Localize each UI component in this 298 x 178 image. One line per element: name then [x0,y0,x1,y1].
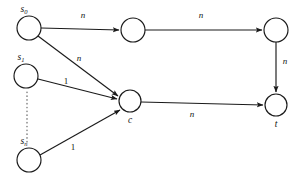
node-labels-group: s0 s1 sn c t [18,4,278,147]
edge-label-s1-to-c: 1 [64,76,69,86]
edges-group [38,28,276,155]
node-label-sn: sn [21,136,28,147]
flow-network-diagram: s0 s1 sn c t n n n n 1 1 n [0,0,298,178]
node-s1[interactable] [14,64,38,88]
edge-label-sn-to-c: 1 [71,142,76,152]
node-label-s0: s0 [21,4,29,15]
edge-label-s0-to-v1: n [81,10,86,20]
edge-sn-to-c [40,110,120,155]
edge-c-to-t [141,102,263,105]
node-t[interactable] [265,94,287,116]
edge-label-c-to-t: n [190,109,195,119]
node-intermediate-top[interactable] [121,18,145,42]
node-label-t: t [275,119,278,129]
node-intermediate-right[interactable] [264,18,288,42]
nodes-group [14,16,288,172]
node-label-s1: s1 [18,52,25,63]
edge-label-s0-to-c: n [77,53,82,63]
node-s0[interactable] [17,16,41,40]
graph-canvas: s0 s1 sn c t n n n n 1 1 n [0,0,298,178]
node-sn[interactable] [17,148,41,172]
edge-s0-to-c [38,36,118,96]
node-label-c: c [128,115,133,125]
edge-label-v1-to-v2: n [199,10,204,20]
edge-s1-to-c [38,79,117,99]
edge-s0-to-v1 [41,28,119,30]
node-c[interactable] [119,90,141,112]
edge-label-v2-to-t: n [283,56,288,66]
